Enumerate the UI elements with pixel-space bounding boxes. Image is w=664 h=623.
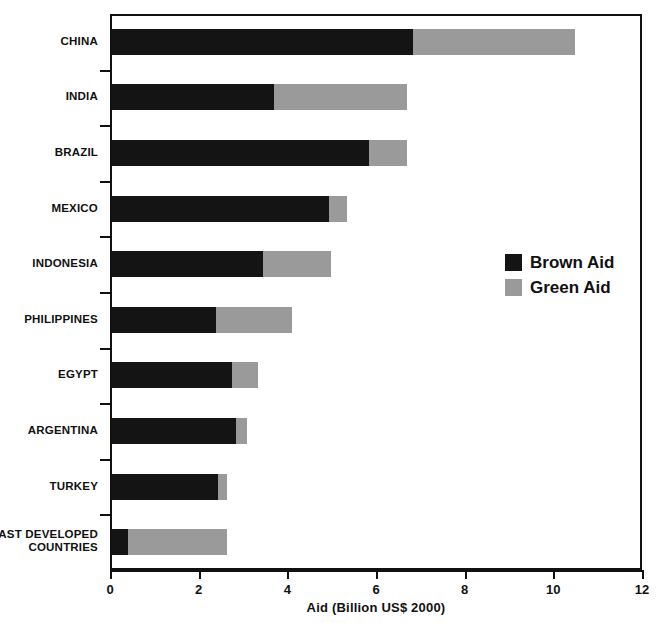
stacked-bar [112,140,407,166]
bar-segment-green-aid [218,474,227,500]
y-axis-category-label: PHILIPPINES [0,313,98,326]
y-axis-tick [100,403,111,405]
y-axis-tick [100,70,111,72]
x-axis-tick-label: 6 [356,582,396,597]
stacked-bar [112,474,227,500]
bar-row: MEXICO [0,181,664,237]
bar-segment-brown-aid [112,418,236,444]
x-axis-tick [465,570,467,579]
bar-row: BRAZIL [0,125,664,181]
y-axis-category-label: BRAZIL [0,146,98,159]
x-axis-tick-label: 0 [90,582,130,597]
x-axis-tick [553,570,555,579]
y-axis-category-label: INDIA [0,90,98,103]
y-axis-tick [100,125,111,127]
bar-row: LEAST DEVELOPED COUNTRIES [0,514,664,570]
bar-segment-brown-aid [112,362,232,388]
y-axis-tick [100,514,111,516]
bar-segment-green-aid [232,362,259,388]
y-axis-tick [100,459,111,461]
bar-segment-green-aid [369,140,407,166]
stacked-bar [112,418,247,444]
legend-item-brown-aid: Brown Aid [505,250,614,275]
bar-segment-brown-aid [112,140,369,166]
y-axis-category-label: CHINA [0,35,98,48]
stacked-bar [112,307,292,333]
x-axis-tick-label: 12 [622,582,662,597]
bar-chart: CHINAINDIABRAZILMEXICOINDONESIAPHILIPPIN… [0,0,664,623]
bar-segment-brown-aid [112,307,216,333]
stacked-bar [112,362,258,388]
bar-segment-green-aid [236,418,247,444]
y-axis-category-label: TURKEY [0,480,98,493]
y-axis-tick [100,181,111,183]
bar-segment-green-aid [329,196,347,222]
y-axis-category-label: MEXICO [0,202,98,215]
legend-label-brown-aid: Brown Aid [530,253,614,273]
legend-swatch-brown-aid-icon [505,254,522,271]
x-axis-tick-label: 10 [533,582,573,597]
bar-segment-brown-aid [112,474,218,500]
bar-segment-green-aid [413,29,575,55]
bar-segment-brown-aid [112,29,413,55]
x-axis-tick [376,570,378,579]
x-axis-tick [199,570,201,579]
y-axis-tick [100,292,111,294]
y-axis-category-label: EGYPT [0,368,98,381]
stacked-bar [112,251,331,277]
x-axis-title: Aid (Billion US$ 2000) [110,600,642,615]
bar-segment-green-aid [263,251,332,277]
stacked-bar [112,529,227,555]
bar-segment-brown-aid [112,529,128,555]
bar-segment-brown-aid [112,196,329,222]
stacked-bar [112,196,347,222]
bar-row: PHILIPPINES [0,292,664,348]
x-axis-tick [642,570,644,579]
y-axis-category-label: LEAST DEVELOPED COUNTRIES [0,528,98,554]
x-axis-tick-label: 8 [445,582,485,597]
legend-item-green-aid: Green Aid [505,275,614,300]
x-axis-tick-label: 2 [179,582,219,597]
bar-row: CHINA [0,14,664,70]
bar-row: TURKEY [0,459,664,515]
y-axis-tick [100,236,111,238]
bar-segment-brown-aid [112,251,263,277]
legend-swatch-green-aid-icon [505,279,522,296]
bar-segment-brown-aid [112,84,274,110]
chart-legend: Brown Aid Green Aid [505,250,614,300]
bar-row: ARGENTINA [0,403,664,459]
y-axis-category-label: ARGENTINA [0,424,98,437]
bar-row: INDIA [0,70,664,126]
bar-segment-green-aid [128,529,228,555]
y-axis-tick [100,348,111,350]
y-axis-category-label: INDONESIA [0,257,98,270]
x-axis-tick [287,570,289,579]
bar-segment-green-aid [274,84,407,110]
x-axis-tick-label: 4 [267,582,307,597]
bar-row: EGYPT [0,348,664,404]
legend-label-green-aid: Green Aid [530,278,611,298]
stacked-bar [112,29,575,55]
bar-segment-green-aid [216,307,291,333]
stacked-bar [112,84,407,110]
x-axis-tick [110,570,112,579]
